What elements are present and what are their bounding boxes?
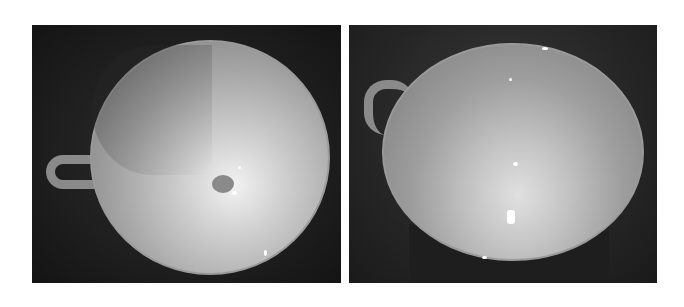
highlight — [513, 162, 518, 166]
cup-handle — [46, 155, 96, 189]
highlight — [232, 191, 237, 195]
highlight — [507, 210, 515, 224]
highlight — [238, 166, 241, 169]
highlight — [509, 78, 512, 81]
cup-bowl — [382, 43, 644, 261]
photo-teacup-angled-view — [349, 25, 657, 283]
cup-center-mark — [212, 175, 234, 193]
cup-shadow — [92, 45, 212, 175]
highlight — [542, 47, 548, 50]
highlight — [482, 256, 487, 259]
highlight — [264, 250, 267, 256]
photo-teacup-top-view — [32, 25, 341, 283]
